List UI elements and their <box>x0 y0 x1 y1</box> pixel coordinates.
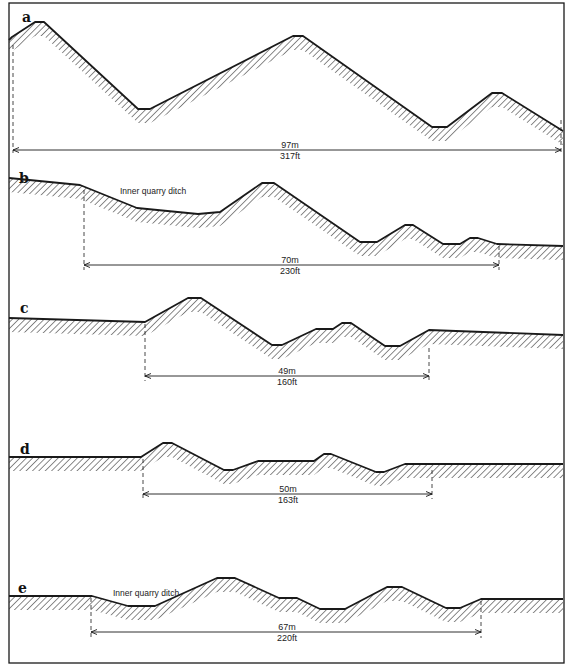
panel-b: b Inner quarry ditch 70m 230ft <box>9 170 563 276</box>
panel-c: c 49m 160ft <box>9 298 563 387</box>
panel-a: a 97m 317ft <box>9 9 563 161</box>
panel-label-d: d <box>20 441 30 457</box>
dimension-imperial-b: 230ft <box>280 266 301 276</box>
hatched-earthwork-c <box>9 298 563 360</box>
dimension-imperial-c: 160ft <box>277 377 298 387</box>
dimension-imperial-e: 220ft <box>277 633 298 643</box>
panel-label-c: c <box>20 300 29 316</box>
panel-label-e: e <box>18 580 27 596</box>
dimension-metric-d: 50m <box>279 484 297 494</box>
panel-d: d 50m 163ft <box>9 441 563 505</box>
dimension-metric-e: 67m <box>278 622 296 632</box>
hatched-earthwork-e <box>9 578 563 623</box>
dimension-imperial-d: 163ft <box>278 495 299 505</box>
ground-profile-line-b <box>9 178 563 246</box>
dimension-metric-a: 97m <box>281 140 299 150</box>
earthwork-cross-sections-figure: a 97m 317ft b Inner quarry ditch 70m 230… <box>0 0 568 667</box>
dimension-imperial-a: 317ft <box>280 151 301 161</box>
dimension-metric-c: 49m <box>278 366 296 376</box>
panel-e: e Inner quarry ditch 67m 220ft <box>9 578 563 643</box>
dimension-line-a <box>13 45 561 155</box>
annotation-inner-quarry-ditch-e: Inner quarry ditch <box>113 588 179 598</box>
dimension-metric-b: 70m <box>281 255 299 265</box>
annotation-inner-quarry-ditch-b: Inner quarry ditch <box>120 186 186 196</box>
panel-label-a: a <box>22 9 31 25</box>
